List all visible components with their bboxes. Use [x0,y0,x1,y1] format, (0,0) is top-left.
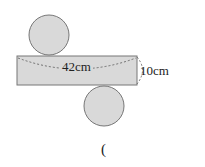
width-label: 42cm [60,59,93,75]
answer-bracket: ( [101,141,106,158]
bottom-circle [84,86,124,126]
top-circle [29,15,69,55]
height-label: 10cm [140,63,169,79]
